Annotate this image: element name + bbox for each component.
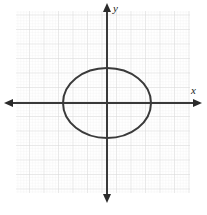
graph-figure: y x — [0, 0, 207, 215]
y-axis-label: y — [113, 3, 118, 14]
x-axis-label: x — [191, 85, 196, 96]
coordinate-plane — [0, 0, 207, 215]
